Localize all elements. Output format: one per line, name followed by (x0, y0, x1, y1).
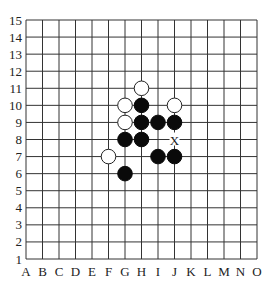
row-label: 7 (16, 149, 23, 164)
x-marker: X (170, 133, 180, 148)
column-label: O (252, 264, 261, 279)
gomoku-board[interactable]: 123456789101112131415 ABCDEFGHIJKLMNO X (0, 0, 266, 286)
column-label: E (88, 264, 96, 279)
row-label: 10 (9, 98, 22, 113)
black-stone[interactable] (118, 166, 133, 181)
row-label: 11 (9, 81, 22, 96)
column-label: L (204, 264, 212, 279)
column-label: N (236, 264, 246, 279)
row-labels: 123456789101112131415 (9, 13, 23, 267)
row-label: 5 (16, 183, 23, 198)
row-label: 2 (16, 234, 23, 249)
column-label: A (21, 264, 31, 279)
row-label: 8 (16, 132, 23, 147)
black-stone[interactable] (167, 115, 182, 130)
column-labels: ABCDEFGHIJKLMNO (21, 264, 261, 279)
row-label: 15 (9, 13, 22, 28)
black-stone[interactable] (167, 149, 182, 164)
row-label: 13 (9, 47, 22, 62)
black-stone[interactable] (134, 115, 149, 130)
white-stone[interactable] (167, 98, 182, 113)
column-label: F (105, 264, 112, 279)
row-label: 12 (9, 64, 22, 79)
column-label: I (156, 264, 160, 279)
column-label: J (172, 264, 177, 279)
markers-layer: X (170, 133, 180, 148)
row-label: 4 (16, 200, 23, 215)
white-stone[interactable] (118, 115, 133, 130)
black-stone[interactable] (134, 98, 149, 113)
column-label: M (218, 264, 230, 279)
black-stone[interactable] (118, 132, 133, 147)
column-label: G (120, 264, 129, 279)
row-label: 14 (9, 30, 23, 45)
column-label: B (38, 264, 47, 279)
black-stone[interactable] (151, 115, 166, 130)
white-stone[interactable] (101, 149, 116, 164)
white-stone[interactable] (118, 98, 133, 113)
row-label: 3 (16, 217, 23, 232)
black-stone[interactable] (134, 132, 149, 147)
white-stone[interactable] (134, 81, 149, 96)
column-label: K (186, 264, 196, 279)
row-label: 9 (16, 115, 23, 130)
column-label: H (137, 264, 146, 279)
column-label: C (55, 264, 64, 279)
column-label: D (71, 264, 80, 279)
row-label: 6 (16, 166, 23, 181)
black-stone[interactable] (151, 149, 166, 164)
